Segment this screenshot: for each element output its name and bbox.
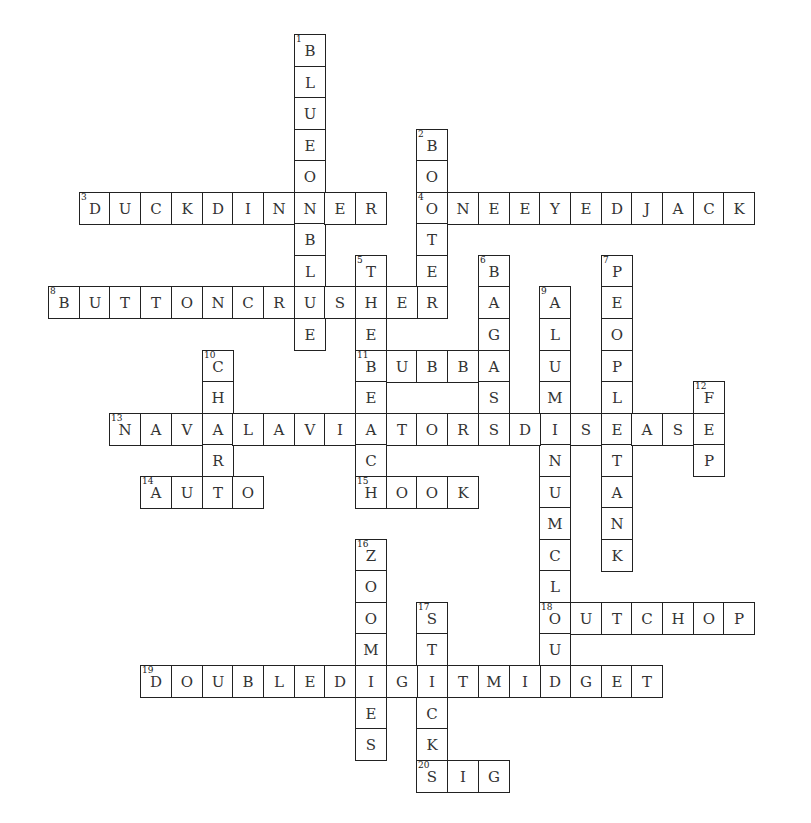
crossword-cell[interactable]: O bbox=[386, 476, 418, 509]
crossword-cell[interactable]: E bbox=[294, 129, 326, 162]
crossword-cell[interactable]: 13N bbox=[109, 413, 141, 446]
crossword-cell[interactable]: T bbox=[601, 444, 633, 477]
crossword-cell[interactable]: U bbox=[294, 286, 326, 319]
crossword-cell[interactable]: O bbox=[355, 602, 387, 635]
crossword-cell[interactable]: E bbox=[693, 413, 725, 446]
crossword-cell[interactable]: I bbox=[539, 413, 571, 446]
crossword-cell[interactable]: G bbox=[478, 760, 510, 793]
crossword-cell[interactable]: C bbox=[416, 697, 448, 730]
crossword-cell[interactable]: N bbox=[539, 444, 571, 477]
crossword-cell[interactable]: U bbox=[570, 602, 602, 635]
crossword-cell[interactable]: G bbox=[570, 665, 602, 698]
crossword-cell[interactable]: D bbox=[601, 192, 633, 225]
crossword-cell[interactable]: S bbox=[355, 728, 387, 761]
crossword-cell[interactable]: P bbox=[601, 350, 633, 383]
crossword-cell[interactable]: K bbox=[723, 192, 755, 225]
crossword-cell[interactable]: N bbox=[294, 192, 326, 225]
crossword-cell[interactable]: N bbox=[202, 286, 234, 319]
crossword-cell[interactable]: E bbox=[294, 665, 326, 698]
crossword-cell[interactable]: A bbox=[478, 350, 510, 383]
crossword-cell[interactable]: 9A bbox=[539, 286, 571, 319]
crossword-cell[interactable]: O bbox=[355, 570, 387, 603]
crossword-cell[interactable]: I bbox=[416, 665, 448, 698]
crossword-cell[interactable]: R bbox=[447, 413, 479, 446]
crossword-cell[interactable]: S bbox=[324, 286, 356, 319]
crossword-cell[interactable]: S bbox=[478, 413, 510, 446]
crossword-cell[interactable]: 4O bbox=[416, 192, 448, 225]
crossword-cell[interactable]: T bbox=[631, 665, 663, 698]
crossword-cell[interactable]: T bbox=[202, 476, 234, 509]
crossword-cell[interactable]: J bbox=[631, 192, 663, 225]
crossword-cell[interactable]: B bbox=[447, 350, 479, 383]
crossword-cell[interactable]: 3D bbox=[79, 192, 111, 225]
crossword-cell[interactable]: I bbox=[447, 760, 479, 793]
crossword-cell[interactable]: 2B bbox=[416, 129, 448, 162]
crossword-cell[interactable]: 12F bbox=[693, 381, 725, 414]
crossword-cell[interactable]: O bbox=[601, 318, 633, 351]
crossword-cell[interactable]: O bbox=[693, 602, 725, 635]
crossword-cell[interactable]: U bbox=[294, 97, 326, 130]
crossword-cell[interactable]: M bbox=[539, 507, 571, 540]
crossword-cell[interactable]: O bbox=[294, 160, 326, 193]
crossword-cell[interactable]: 1B bbox=[294, 34, 326, 67]
crossword-cell[interactable]: T bbox=[109, 286, 141, 319]
crossword-cell[interactable]: H bbox=[662, 602, 694, 635]
crossword-cell[interactable]: R bbox=[355, 192, 387, 225]
crossword-cell[interactable]: 15H bbox=[355, 476, 387, 509]
crossword-cell[interactable]: A bbox=[202, 413, 234, 446]
crossword-cell[interactable]: K bbox=[171, 192, 203, 225]
crossword-cell[interactable]: 8B bbox=[48, 286, 80, 319]
crossword-cell[interactable]: B bbox=[294, 223, 326, 256]
crossword-cell[interactable]: T bbox=[601, 602, 633, 635]
crossword-cell[interactable]: A bbox=[263, 413, 295, 446]
crossword-cell[interactable]: U bbox=[202, 665, 234, 698]
crossword-cell[interactable]: E bbox=[478, 192, 510, 225]
crossword-cell[interactable]: T bbox=[416, 223, 448, 256]
crossword-cell[interactable]: T bbox=[140, 286, 172, 319]
crossword-cell[interactable]: D bbox=[509, 413, 541, 446]
crossword-cell[interactable]: E bbox=[294, 318, 326, 351]
crossword-cell[interactable]: T bbox=[447, 665, 479, 698]
crossword-cell[interactable]: U bbox=[386, 350, 418, 383]
crossword-cell[interactable]: C bbox=[355, 444, 387, 477]
crossword-cell[interactable]: 18O bbox=[539, 602, 571, 635]
crossword-cell[interactable]: N bbox=[447, 192, 479, 225]
crossword-cell[interactable]: C bbox=[232, 286, 264, 319]
crossword-cell[interactable]: O bbox=[171, 665, 203, 698]
crossword-cell[interactable]: 7P bbox=[601, 255, 633, 288]
crossword-cell[interactable]: N bbox=[263, 192, 295, 225]
crossword-cell[interactable]: H bbox=[355, 286, 387, 319]
crossword-cell[interactable]: L bbox=[263, 665, 295, 698]
crossword-cell[interactable]: 20S bbox=[416, 760, 448, 793]
crossword-cell[interactable]: 11B bbox=[355, 350, 387, 383]
crossword-cell[interactable]: L bbox=[539, 570, 571, 603]
crossword-cell[interactable]: O bbox=[232, 476, 264, 509]
crossword-cell[interactable]: B bbox=[416, 350, 448, 383]
crossword-cell[interactable]: L bbox=[294, 66, 326, 99]
crossword-cell[interactable]: E bbox=[355, 381, 387, 414]
crossword-cell[interactable]: T bbox=[416, 633, 448, 666]
crossword-cell[interactable]: V bbox=[171, 413, 203, 446]
crossword-cell[interactable]: C bbox=[693, 192, 725, 225]
crossword-cell[interactable]: O bbox=[416, 160, 448, 193]
crossword-cell[interactable]: E bbox=[416, 255, 448, 288]
crossword-cell[interactable]: E bbox=[386, 286, 418, 319]
crossword-cell[interactable]: P bbox=[723, 602, 755, 635]
crossword-cell[interactable]: M bbox=[478, 665, 510, 698]
crossword-cell[interactable]: M bbox=[539, 381, 571, 414]
crossword-cell[interactable]: O bbox=[416, 476, 448, 509]
crossword-cell[interactable]: B bbox=[232, 665, 264, 698]
crossword-cell[interactable]: I bbox=[232, 192, 264, 225]
crossword-cell[interactable]: 17S bbox=[416, 602, 448, 635]
crossword-cell[interactable]: G bbox=[386, 665, 418, 698]
crossword-cell[interactable]: A bbox=[601, 476, 633, 509]
crossword-cell[interactable]: K bbox=[416, 728, 448, 761]
crossword-cell[interactable]: C bbox=[140, 192, 172, 225]
crossword-cell[interactable]: K bbox=[447, 476, 479, 509]
crossword-cell[interactable]: N bbox=[601, 507, 633, 540]
crossword-cell[interactable]: E bbox=[355, 697, 387, 730]
crossword-cell[interactable]: R bbox=[202, 444, 234, 477]
crossword-cell[interactable]: R bbox=[416, 286, 448, 319]
crossword-cell[interactable]: D bbox=[539, 665, 571, 698]
crossword-cell[interactable]: A bbox=[140, 413, 172, 446]
